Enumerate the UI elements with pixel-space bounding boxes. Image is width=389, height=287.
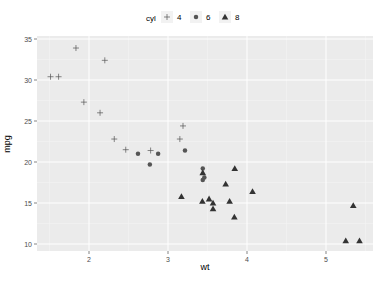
legend: cyl468 — [146, 11, 240, 23]
legend-label: 8 — [235, 13, 240, 22]
legend-label: 4 — [177, 13, 182, 22]
circle-marker — [156, 152, 161, 157]
x-tick-label: 3 — [166, 256, 170, 263]
legend-title: cyl — [146, 14, 156, 23]
y-tick-label: 35 — [24, 36, 32, 43]
circle-marker — [194, 15, 199, 20]
y-tick-label: 10 — [24, 241, 32, 248]
x-tick-label: 2 — [87, 256, 91, 263]
y-tick-label: 20 — [24, 159, 32, 166]
plot-panel — [37, 36, 373, 251]
circle-marker — [136, 152, 141, 157]
y-tick-label: 30 — [24, 77, 32, 84]
y-tick-label: 25 — [24, 118, 32, 125]
circle-marker — [183, 148, 188, 153]
y-axis-label: mpg — [2, 135, 12, 153]
circle-marker — [148, 162, 153, 167]
legend-label: 6 — [206, 13, 211, 22]
circle-marker — [201, 178, 206, 183]
x-axis-label: wt — [200, 262, 210, 272]
scatter-chart: cyl468 2345101520253035 wt mpg — [0, 0, 389, 287]
y-tick-label: 15 — [24, 200, 32, 207]
x-tick-label: 5 — [324, 256, 328, 263]
x-tick-label: 4 — [245, 256, 249, 263]
